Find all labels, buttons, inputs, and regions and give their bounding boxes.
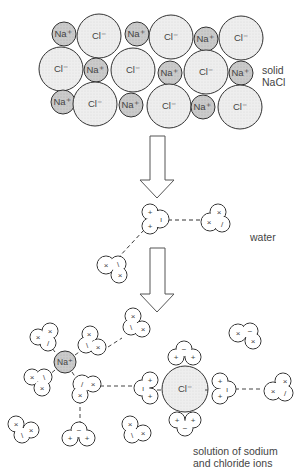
- svg-text:+: +: [175, 416, 180, 425]
- water-molecule: [212, 373, 236, 404]
- water-molecule: [134, 372, 158, 404]
- svg-text:×: ×: [96, 343, 101, 352]
- svg-text:Na⁺: Na⁺: [127, 28, 144, 39]
- svg-text:Na⁺: Na⁺: [53, 96, 70, 107]
- svg-text:×: ×: [131, 312, 136, 321]
- svg-text:+: +: [218, 377, 223, 386]
- water-molecule: [24, 369, 52, 396]
- water-label: water: [250, 231, 276, 243]
- svg-text:×: ×: [118, 271, 123, 280]
- svg-text:+: +: [191, 416, 196, 425]
- svg-text:ı: ı: [226, 385, 228, 394]
- svg-text:×: ×: [87, 330, 92, 339]
- svg-text:×: ×: [36, 333, 41, 342]
- water-molecule: [30, 323, 58, 351]
- svg-text:Cl⁻: Cl⁻: [54, 63, 68, 74]
- water-molecule: [201, 204, 230, 232]
- svg-text:×: ×: [30, 373, 35, 382]
- svg-text:ı: ı: [160, 215, 162, 224]
- svg-text:×: ×: [207, 218, 212, 227]
- svg-text:Na⁺: Na⁺: [193, 101, 210, 112]
- svg-text:Cl⁻: Cl⁻: [126, 64, 140, 75]
- svg-text:×: ×: [14, 420, 19, 429]
- solution-label-line1: solution of sodium: [193, 445, 278, 457]
- water-molecule: [97, 256, 127, 283]
- svg-text:−: −: [182, 345, 187, 354]
- water-molecule: [8, 416, 39, 443]
- svg-text:−: −: [183, 424, 188, 433]
- svg-text:×: ×: [236, 329, 241, 338]
- svg-text:+: +: [218, 392, 223, 401]
- svg-text:×: ×: [40, 384, 45, 393]
- water-molecule: [229, 323, 261, 349]
- svg-text:×: ×: [271, 387, 276, 396]
- water-molecule: [122, 416, 151, 443]
- svg-text:×: ×: [104, 261, 109, 270]
- lattice-row-3: [51, 82, 262, 129]
- svg-text:×: ×: [29, 426, 34, 435]
- water-molecule: [142, 204, 169, 234]
- svg-text:+: +: [85, 434, 90, 443]
- svg-text:Na⁺: Na⁺: [54, 28, 71, 39]
- svg-text:Cl⁻: Cl⁻: [88, 98, 102, 109]
- solid-nacl-label-line1: solid: [262, 64, 284, 76]
- svg-text:×: ×: [217, 208, 222, 217]
- solution-label-line2: and chloride ions: [193, 457, 272, 469]
- svg-text:+: +: [174, 353, 179, 362]
- water-molecule: [264, 373, 293, 401]
- svg-text:Cl⁻: Cl⁻: [199, 66, 213, 77]
- svg-text:ı: ı: [142, 384, 144, 393]
- svg-text:Na⁺: Na⁺: [121, 99, 138, 110]
- svg-text:+: +: [148, 376, 153, 385]
- water-molecule: [123, 308, 150, 337]
- svg-text:Na⁺: Na⁺: [196, 33, 213, 44]
- svg-text:Cl⁻: Cl⁻: [164, 31, 178, 42]
- svg-text:+: +: [191, 353, 196, 362]
- solid-nacl-label-line2: NaCl: [262, 76, 285, 88]
- svg-text:Cl⁻: Cl⁻: [178, 383, 192, 394]
- down-arrow-1: [140, 136, 174, 198]
- down-arrow-2: [140, 248, 174, 312]
- lattice-row-2: [39, 47, 253, 94]
- svg-text:Na⁺: Na⁺: [57, 357, 73, 367]
- svg-text:Cl⁻: Cl⁻: [234, 32, 248, 43]
- lattice-row-1: [52, 14, 263, 60]
- svg-text:×: ×: [251, 337, 256, 346]
- svg-text:+: +: [148, 392, 153, 401]
- svg-text:×: ×: [128, 420, 133, 429]
- svg-text:−: −: [248, 327, 253, 336]
- svg-text:×: ×: [141, 325, 146, 334]
- svg-text:×: ×: [141, 429, 146, 438]
- svg-text:×: ×: [91, 380, 96, 389]
- svg-text:Na⁺: Na⁺: [160, 67, 177, 78]
- svg-text:Na⁺: Na⁺: [86, 64, 103, 75]
- svg-text:+: +: [148, 222, 153, 231]
- svg-text:−: −: [77, 426, 82, 435]
- water-molecule: [78, 326, 106, 355]
- svg-text:Na⁺: Na⁺: [231, 67, 248, 78]
- svg-text:×: ×: [48, 327, 53, 336]
- svg-text:Cl⁻: Cl⁻: [92, 30, 106, 41]
- svg-text:+: +: [148, 208, 153, 217]
- svg-text:×: ×: [283, 377, 288, 386]
- svg-text:Cl⁻: Cl⁻: [162, 100, 176, 111]
- svg-text:+: +: [68, 434, 73, 443]
- water-molecule: [72, 375, 101, 403]
- svg-text:×: ×: [78, 391, 83, 400]
- svg-text:Cl⁻: Cl⁻: [233, 101, 247, 112]
- solid-nacl-lattice: [39, 14, 263, 129]
